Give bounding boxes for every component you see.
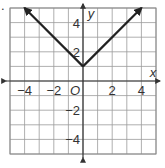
problem-marker: . xyxy=(1,0,5,13)
svg-text:−2: −2 xyxy=(46,83,61,98)
svg-text:−2: −2 xyxy=(65,103,80,118)
svg-text:x: x xyxy=(149,65,157,80)
svg-text:−4: −4 xyxy=(65,132,80,147)
svg-text:−4: −4 xyxy=(17,83,32,98)
svg-text:2: 2 xyxy=(73,45,80,60)
svg-text:2: 2 xyxy=(109,83,116,98)
axes xyxy=(6,4,160,158)
svg-text:4: 4 xyxy=(138,83,145,98)
svg-text:4: 4 xyxy=(73,16,80,31)
coordinate-plane: . −4−22442−2−4Oxy xyxy=(0,0,165,168)
svg-text:O: O xyxy=(70,83,80,98)
axis-labels: −4−22442−2−4Oxy xyxy=(17,6,157,147)
